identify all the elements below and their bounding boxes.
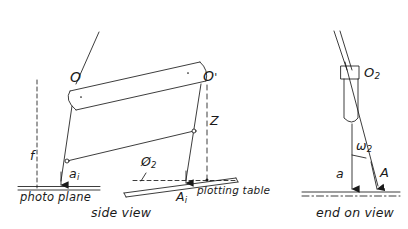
label-Z: Z — [210, 115, 219, 128]
label-O: O — [70, 70, 81, 84]
label-a-i-letter: a — [69, 166, 77, 181]
label-A-end-view: A — [380, 166, 389, 179]
omega2-angle-leader — [352, 155, 366, 158]
caption-photo-plane: photo plane — [20, 192, 91, 204]
caption-side-view: side view — [91, 207, 151, 220]
phi2-angle-leader — [141, 173, 146, 181]
arrow-A-end-view — [371, 162, 377, 189]
diagram-canvas: O O' f Z ai Ai Ø2 O2 ω2 a A photo plane … — [0, 0, 408, 229]
label-phi-subscript: 2 — [151, 160, 157, 170]
label-A-i: Ai — [176, 191, 187, 204]
end-view-upper-rays — [334, 31, 352, 70]
label-A-i-letter: A — [176, 189, 185, 204]
side-view-camera-bar — [68, 62, 207, 110]
label-omega-subscript: 2 — [367, 144, 373, 154]
label-phi-2: Ø2 — [141, 156, 157, 169]
label-f: f — [30, 150, 35, 163]
label-a-end-view: a — [336, 168, 344, 181]
end-view-camera-head — [341, 66, 359, 79]
label-O-2-letter: O — [364, 65, 374, 80]
label-A-i-subscript: i — [185, 195, 188, 205]
label-O-prime: O' — [203, 69, 217, 83]
z-table-node — [206, 179, 209, 182]
label-prime-mark: ' — [214, 71, 217, 84]
caption-plotting-table: plotting table — [197, 185, 270, 196]
label-O-2-subscript: 2 — [374, 71, 380, 81]
label-omega-symbol: ω — [356, 138, 367, 153]
side-view-linkage — [65, 129, 196, 163]
label-a-i: ai — [69, 168, 79, 181]
label-a-i-subscript: i — [77, 172, 80, 182]
label-omega-2: ω2 — [356, 140, 372, 153]
caption-end-on-view: end on view — [316, 207, 394, 220]
label-O-prime-letter: O — [203, 68, 214, 84]
label-phi-symbol: Ø — [141, 154, 151, 169]
label-O-2: O2 — [364, 66, 380, 81]
